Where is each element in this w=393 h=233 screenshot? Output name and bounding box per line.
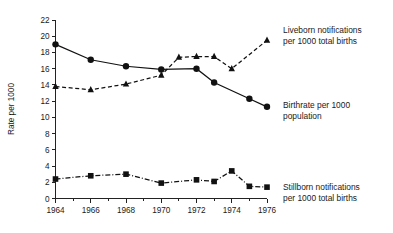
- data-point-square: [194, 177, 200, 183]
- y-tick-label: 12: [40, 97, 50, 106]
- y-axis-title: Rate per 1000: [7, 83, 16, 135]
- x-tick-label: 1968: [117, 206, 136, 215]
- x-tick-label: 1966: [82, 206, 101, 215]
- annotation-liveborn: Liveborn notifications per 1000 total bi…: [283, 25, 362, 46]
- x-tick-label: 1976: [258, 206, 277, 215]
- data-point-square: [211, 179, 217, 185]
- data-point-square: [88, 173, 94, 179]
- annotation-liveborn-line1: Liveborn notifications: [283, 25, 362, 35]
- annotation-liveborn-line2: per 1000 total births: [283, 36, 357, 46]
- y-tick-label: 14: [40, 81, 50, 90]
- data-point-triangle: [52, 83, 58, 89]
- x-axis: 1964196619681970197219741976: [46, 199, 276, 215]
- y-axis: 0246810121416182022 Rate per 1000: [7, 16, 56, 204]
- x-tick-label: 1964: [46, 206, 65, 215]
- y-tick-label: 22: [40, 16, 50, 25]
- annotation-birthrate-line1: Birthrate per 1000: [283, 100, 350, 110]
- data-point-square: [158, 180, 164, 186]
- chart-container: 0246810121416182022 Rate per 1000 196419…: [0, 0, 393, 233]
- annotation-birthrate: Birthrate per 1000 population: [283, 100, 350, 121]
- annotation-stillborn-line1: Stillborn notifications: [283, 182, 360, 192]
- series-triangle: [52, 37, 270, 93]
- data-point-circle: [193, 65, 199, 71]
- y-tick-label: 16: [40, 65, 50, 74]
- line-chart: 0246810121416182022 Rate per 1000 196419…: [0, 0, 393, 233]
- y-tick-label: 20: [40, 32, 50, 41]
- data-point-square: [247, 184, 253, 190]
- y-tick-label: 6: [45, 146, 50, 155]
- data-point-circle: [211, 79, 217, 85]
- y-tick-label: 4: [45, 162, 50, 171]
- x-tick-label: 1972: [187, 206, 206, 215]
- data-point-circle: [88, 57, 94, 63]
- series-square: [53, 168, 270, 190]
- y-tick-label: 10: [40, 113, 50, 122]
- y-axis-tick-labels: 0246810121416182022: [40, 16, 50, 204]
- data-point-triangle: [229, 65, 235, 71]
- y-tick-label: 0: [45, 195, 50, 204]
- data-point-square: [123, 171, 129, 177]
- data-point-circle: [52, 41, 58, 47]
- y-tick-label: 18: [40, 48, 50, 57]
- x-tick-label: 1970: [152, 206, 171, 215]
- series-layer: [52, 29, 279, 190]
- x-tick-label: 1974: [223, 206, 242, 215]
- y-tick-label: 2: [45, 178, 50, 187]
- series-line: [56, 40, 268, 89]
- data-point-square: [53, 176, 59, 182]
- data-point-triangle: [158, 71, 164, 77]
- annotation-stillborn: Stillborn notifications per 1000 total b…: [283, 182, 360, 203]
- annotation-birthrate-line2: population: [283, 111, 322, 121]
- y-tick-label: 8: [45, 130, 50, 139]
- annotation-stillborn-line2: per 1000 total births: [283, 193, 357, 203]
- data-point-circle: [123, 63, 129, 69]
- x-axis-ticks: [56, 199, 268, 203]
- x-axis-tick-labels: 1964196619681970197219741976: [46, 206, 276, 215]
- data-point-square: [229, 168, 235, 174]
- data-point-circle: [246, 96, 252, 102]
